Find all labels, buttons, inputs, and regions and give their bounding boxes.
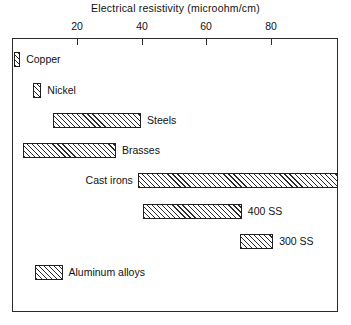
bar-row[interactable]: Nickel [0,83,351,99]
electrical-resistivity-chart: Electrical resistivity (microohm/cm) 20 … [0,0,351,325]
x-tick-label-60: 60 [200,20,212,32]
range-bar[interactable] [53,113,141,128]
x-tick-mark-60 [206,38,207,45]
bar-label: 300 SS [279,235,313,248]
range-bar[interactable] [23,143,116,158]
range-bar[interactable] [33,83,41,98]
x-axis-tick-labels: 20 40 60 80 [0,20,351,34]
bar-row[interactable]: Cast irons [0,173,351,189]
x-tick-label-20: 20 [71,20,83,32]
x-tick-label-40: 40 [136,20,148,32]
bar-label: Brasses [122,144,160,157]
bar-row[interactable]: Brasses [0,143,351,159]
x-tick-mark-80 [271,38,272,45]
bar-row[interactable]: Steels [0,113,351,129]
x-tick-label-80: 80 [265,20,277,32]
range-bar[interactable] [14,52,20,67]
bar-label: Copper [26,53,60,66]
range-bar[interactable] [143,204,242,219]
bar-label: Nickel [47,84,76,97]
bar-row[interactable]: 400 SS [0,204,351,220]
range-bar[interactable] [240,234,273,249]
chart-title: Electrical resistivity (microohm/cm) [0,2,351,14]
bar-row[interactable]: 300 SS [0,234,351,250]
x-tick-mark-20 [77,38,78,45]
bar-label: 400 SS [248,205,282,218]
range-bar[interactable] [35,265,62,280]
x-tick-mark-40 [142,38,143,45]
bar-label: Cast irons [86,174,133,187]
bar-label: Steels [147,114,176,127]
bar-row[interactable]: Copper [0,52,351,68]
range-bar[interactable] [138,173,338,188]
bar-row[interactable]: Aluminum alloys [0,265,351,281]
bar-label: Aluminum alloys [69,266,145,279]
